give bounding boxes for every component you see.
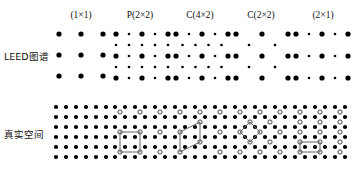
leed-pattern-2x1 (292, 28, 352, 82)
column-header-2x1: (2×1) (288, 8, 358, 22)
row-label-leed-pattern: LEED图谱 (4, 51, 49, 63)
column-header-c4x2: C(4×2) (165, 8, 235, 22)
unit-cell-square (120, 132, 140, 152)
real-space-1x1 (53, 104, 111, 162)
leed-pattern-1x1 (53, 28, 109, 82)
leed-pattern-p2x2 (112, 28, 168, 82)
real-space-2x1 (292, 104, 352, 162)
unit-cell-diamond (240, 122, 260, 142)
real-space-c2x2 (232, 104, 290, 162)
leed-real-space-figure: (1×1) P(2×2) C(4×2) C(2×2) (2×1) LEED图谱 … (0, 0, 361, 173)
column-header-c2x2: C(2×2) (226, 8, 296, 22)
real-space-c4x2 (172, 104, 230, 162)
real-space-p2x2 (112, 104, 170, 162)
leed-pattern-c4x2 (172, 28, 228, 82)
leed-pattern-c2x2 (232, 28, 288, 82)
row-label-real-space: 真实空间 (4, 129, 44, 141)
column-header-row: (1×1) P(2×2) C(4×2) C(2×2) (2×1) (0, 8, 361, 24)
